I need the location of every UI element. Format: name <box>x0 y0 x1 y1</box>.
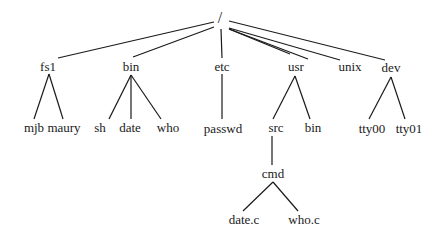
node-sh: sh <box>94 121 106 134</box>
tree-edge <box>221 29 222 58</box>
tree-edge <box>109 75 131 119</box>
node-tty01: tty01 <box>396 122 423 135</box>
node-tty00: tty00 <box>359 122 386 135</box>
node-bin: bin <box>123 60 140 73</box>
tree-edge <box>131 75 161 119</box>
tree-edge <box>295 76 310 119</box>
node-fs1: fs1 <box>40 60 56 73</box>
node-passwd: passwd <box>204 122 242 135</box>
node-maury: maury <box>47 121 80 134</box>
node-usr: usr <box>288 60 304 73</box>
node-mjb: mjb <box>24 121 44 134</box>
node-usr-bin: bin <box>305 121 322 134</box>
tree-edge <box>391 77 405 119</box>
node-who: who <box>157 121 179 134</box>
file-system-tree-diagram: / fs1 bin etc usr unix dev mjb maury sh … <box>0 0 435 238</box>
tree-edge <box>229 21 385 60</box>
node-date-c: date.c <box>229 213 260 226</box>
tree-edge <box>49 74 63 119</box>
tree-edge <box>243 182 273 211</box>
tree-edge <box>34 74 49 119</box>
node-unix: unix <box>338 60 361 73</box>
tree-edge <box>273 182 298 211</box>
tree-edge <box>369 77 391 119</box>
node-etc: etc <box>214 60 229 73</box>
node-date: date <box>119 121 141 134</box>
node-src: src <box>268 121 283 134</box>
tree-edge <box>229 29 290 54</box>
node-dev: dev <box>382 61 401 74</box>
node-cmd: cmd <box>262 167 284 180</box>
node-root: / <box>218 10 222 26</box>
node-who-c: who.c <box>288 213 319 226</box>
tree-edge <box>58 22 214 58</box>
tree-edge <box>273 76 295 119</box>
